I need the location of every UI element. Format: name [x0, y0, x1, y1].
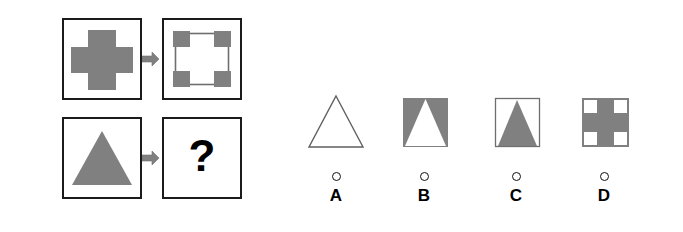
inverse-cross-figure	[164, 20, 240, 98]
white-corner-br	[614, 132, 627, 145]
matrix-cell-row2-prompt	[62, 117, 142, 199]
option-a-figure	[300, 86, 372, 152]
option-d-radio[interactable]	[600, 172, 609, 181]
triangle-outline-shape	[309, 96, 363, 147]
option-d-figure	[568, 86, 640, 152]
option-a-radio[interactable]	[332, 172, 341, 181]
matrix-cell-row1-answer	[162, 18, 242, 100]
option-d-label: D	[568, 186, 640, 206]
arrow-right-icon-row2	[142, 150, 160, 166]
option-b-radio[interactable]	[420, 172, 429, 181]
corner-square-tl	[173, 31, 190, 47]
answer-option-b[interactable]: B	[388, 86, 460, 206]
option-c-figure	[480, 86, 552, 152]
triangle-figure	[64, 119, 140, 197]
option-c-label: C	[480, 186, 552, 206]
arrow-right-icon-row1	[142, 51, 160, 67]
answer-options: A B C	[300, 86, 660, 216]
corner-square-br	[214, 71, 231, 87]
answer-option-a[interactable]: A	[300, 86, 372, 206]
option-a-label: A	[300, 186, 372, 206]
visual-analogy-puzzle: ? A B	[0, 0, 683, 232]
answer-option-c[interactable]: C	[480, 86, 552, 206]
matrix-cell-row2-answer: ?	[162, 117, 242, 199]
cross-shape	[71, 30, 133, 90]
corner-square-bl	[173, 71, 190, 87]
analogy-matrix: ?	[40, 18, 265, 216]
triangle-shape	[72, 131, 132, 185]
option-b-label: B	[388, 186, 460, 206]
cross-figure	[64, 20, 140, 98]
white-corner-bl	[584, 132, 597, 145]
option-b-figure	[388, 86, 460, 152]
answer-option-d[interactable]: D	[568, 86, 640, 206]
matrix-cell-row1-prompt	[62, 18, 142, 100]
white-corner-tr	[614, 100, 627, 113]
option-c-radio[interactable]	[512, 172, 521, 181]
white-corner-tl	[584, 100, 597, 113]
question-mark: ?	[164, 119, 240, 197]
corner-square-tr	[214, 31, 231, 47]
